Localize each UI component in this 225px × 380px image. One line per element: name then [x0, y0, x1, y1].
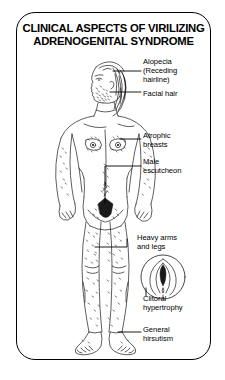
callout-label-male-escutcheon: Male escutcheon: [143, 157, 181, 175]
callout-label-alopecia: Alopecia (Receding hairline): [143, 57, 177, 85]
page-title-line-2: ADRENOGENITAL SYNDROME: [20, 35, 207, 48]
illustration-plate: CLINICAL ASPECTS OF VIRILIZING ADRENOGEN…: [0, 0, 225, 380]
callout-label-atrophic-breasts: Atrophic breasts: [143, 131, 170, 149]
callout-label-facial-hair: Facial hair: [143, 89, 177, 98]
page-title-line-1: CLINICAL ASPECTS OF VIRILIZING: [20, 22, 207, 35]
callout-label-general-hirsutism: General hirsutism: [143, 325, 173, 343]
callout-label-clitoral-hypertrophy: Clitoral hypertrophy: [143, 294, 183, 312]
page-title: CLINICAL ASPECTS OF VIRILIZING ADRENOGEN…: [20, 22, 207, 48]
callout-label-heavy-arms-and-legs: Heavy arms and legs: [137, 233, 177, 251]
